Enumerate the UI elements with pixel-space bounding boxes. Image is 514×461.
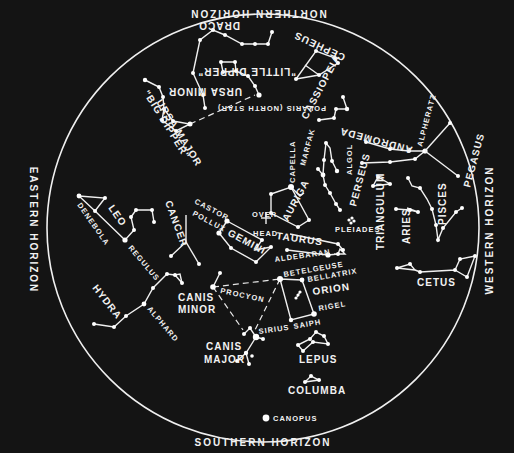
sirius-label: SIRIUS [258,323,290,336]
orion-label: ORION [312,281,351,297]
star-chart-svg: NORTHERN HORIZON SOUTHERN HORIZON EASTER… [0,0,514,453]
constellation-columba [303,374,321,384]
big-dipper-label: "BIG DIPPER" [141,88,192,161]
guide-line-betelgeuse-sirius [255,279,280,330]
canis-major-label-1: CANIS [206,341,242,352]
hydra-label: HYDRA [90,282,124,321]
northern-horizon-label: NORTHERN HORIZON [189,8,327,19]
denebola-label: DENEBOLA [75,201,111,247]
canis-minor-label-1: CANIS [178,292,214,303]
aries-label: ARIES [401,208,412,244]
canopus-label: CANOPUS [273,414,318,423]
columba-label: COLUMBA [288,385,346,396]
western-horizon-label: WESTERN HORIZON [484,166,495,295]
pleiades-label: PLEIADES [335,225,381,234]
ursa-minor-label: URSA MINOR [168,86,242,97]
capella-label: CAPELLA [288,141,297,183]
alphard-label: ALPHARD [145,305,180,344]
pegasus-label: PEGASUS [461,132,486,189]
triangulum-label: TRIANGULUM [375,173,386,250]
overhead-label-top: OVER [252,210,277,219]
pisces-label: PISCES [437,182,448,225]
canis-minor-label-2: MINOR [178,304,216,315]
constellation-lepus [296,330,330,353]
canopus-star [263,415,270,422]
southern-horizon-label: SOUTHERN HORIZON [195,437,332,448]
regulus-label: REGULUS [126,244,161,283]
constellation-cetus [395,254,477,279]
aldebaran-label: ALDEBARAN [274,247,331,264]
marfak-label: MARFAK [298,127,317,166]
canis-major-label-2: MAJOR [204,354,245,365]
pleiades-cluster [347,216,355,224]
constellation-pisces [406,176,464,242]
eastern-horizon-label: EASTERN HORIZON [28,167,39,294]
cetus-label: CETUS [417,277,456,288]
star-chart: NORTHERN HORIZON SOUTHERN HORIZON EASTER… [0,0,514,453]
procyon-label: PROCYON [220,286,266,304]
constellation-perseus [316,141,342,212]
lepus-label: LEPUS [299,354,337,365]
saiph-label: SAIPH [293,317,322,331]
little-dipper-label: "LITTLE DIPPER" [198,66,296,77]
algol-label: ALGOL [345,144,354,175]
draco-label: DRACO [198,20,240,31]
rigel-label: RIGEL [318,299,347,313]
taurus-label: TAURUS [276,230,324,247]
